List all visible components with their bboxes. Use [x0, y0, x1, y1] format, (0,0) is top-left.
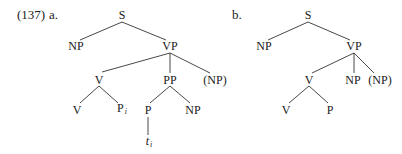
node-np-subject: NP	[256, 40, 271, 52]
node-v-complex: V	[95, 74, 104, 86]
index-subscript: i	[125, 107, 127, 116]
node-vp: VP	[162, 40, 177, 52]
subexample-a-label: a.	[49, 8, 58, 21]
trace-subscript: i	[150, 140, 152, 149]
node-p: P	[145, 104, 152, 116]
node-s: S	[119, 9, 126, 21]
tree-edges	[0, 0, 402, 154]
node-trace: ti	[146, 135, 153, 151]
node-p-indexed: Pi	[117, 102, 127, 118]
node-np-optional: (NP)	[203, 74, 226, 86]
node-np-optional: (NP)	[368, 74, 391, 86]
node-v-head: V	[282, 104, 291, 116]
node-v-complex: V	[305, 74, 314, 86]
node-s: S	[305, 9, 312, 21]
example-number: (137)	[17, 8, 45, 21]
node-np-subject: NP	[68, 40, 83, 52]
subexample-b-label: b.	[232, 8, 242, 21]
node-v-head: V	[73, 104, 82, 116]
node-np-object: NP	[185, 104, 200, 116]
node-vp: VP	[346, 40, 361, 52]
node-pp: PP	[163, 74, 176, 86]
node-np-object: NP	[345, 74, 360, 86]
node-p: P	[327, 104, 334, 116]
